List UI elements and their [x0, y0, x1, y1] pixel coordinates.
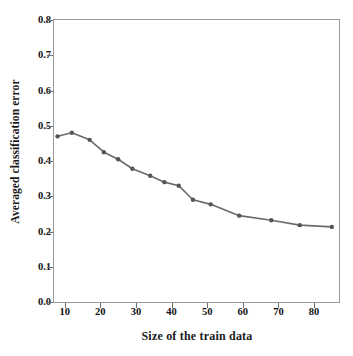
x-axis-tick-label: 60	[228, 307, 258, 318]
data-point	[55, 134, 59, 138]
data-point	[87, 138, 91, 142]
x-axis-tick-label: 70	[263, 307, 293, 318]
data-point	[209, 202, 213, 206]
data-point	[162, 180, 166, 184]
chart-figure: Averaged classification error 0.00.10.20…	[0, 0, 353, 356]
x-axis-tick-label: 80	[299, 307, 329, 318]
data-point	[298, 223, 302, 227]
data-point	[191, 198, 195, 202]
x-axis-tick-label: 40	[157, 307, 187, 318]
x-axis-tick-label: 30	[121, 307, 151, 318]
data-point	[237, 213, 241, 217]
data-point	[269, 218, 273, 222]
data-point	[116, 157, 120, 161]
x-axis-tick-label: 50	[192, 307, 222, 318]
x-axis-label: Size of the train data	[53, 329, 341, 344]
x-axis-tick-labels: 1020304050607080	[0, 307, 353, 323]
data-point	[176, 183, 180, 187]
line-chart-canvas	[54, 20, 339, 302]
x-axis-tick-label: 10	[50, 307, 80, 318]
plot-area	[53, 19, 340, 303]
data-series-line	[58, 133, 332, 227]
data-point	[70, 131, 74, 135]
data-point	[130, 167, 134, 171]
data-point	[102, 150, 106, 154]
x-axis-tick-label: 20	[85, 307, 115, 318]
data-point	[330, 225, 334, 229]
data-point	[148, 174, 152, 178]
y-axis-label-container: Averaged classification error	[2, 0, 22, 310]
y-axis-tick-labels: 0.00.10.20.30.40.50.60.70.8	[21, 0, 51, 320]
